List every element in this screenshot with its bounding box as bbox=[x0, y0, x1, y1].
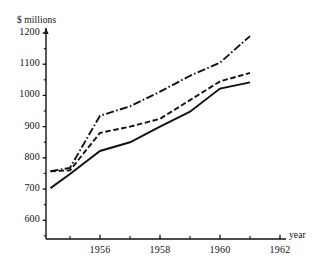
x-tick-label: 1960 bbox=[200, 244, 240, 255]
plot-area bbox=[0, 0, 329, 273]
y-tick-label: 800 bbox=[6, 151, 40, 162]
x-tick-label: 1956 bbox=[80, 244, 120, 255]
series-lines bbox=[51, 36, 251, 188]
y-tick-label: 600 bbox=[6, 213, 40, 224]
series-line-upper bbox=[51, 36, 251, 171]
series-line-lower bbox=[51, 82, 251, 188]
y-tick-label: 1000 bbox=[6, 88, 40, 99]
y-tick-label: 700 bbox=[6, 182, 40, 193]
x-tick-label: 1962 bbox=[260, 244, 300, 255]
y-tick-label: 900 bbox=[6, 120, 40, 131]
y-tick-label: 1200 bbox=[6, 26, 40, 37]
x-tick-label: 1958 bbox=[140, 244, 180, 255]
line-chart: $ millions year 600700800900100011001200… bbox=[0, 0, 329, 273]
y-tick-label: 1100 bbox=[6, 57, 40, 68]
tick-marks bbox=[43, 33, 280, 239]
axis-lines bbox=[44, 28, 286, 239]
